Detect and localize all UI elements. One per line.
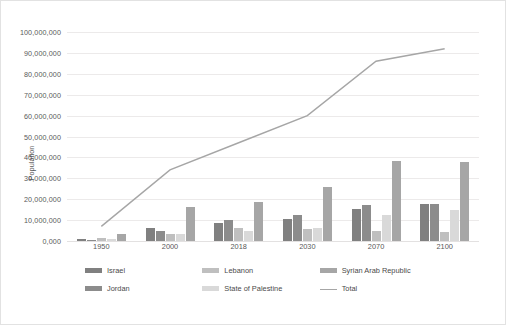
bar [392, 161, 401, 241]
y-axis-tick-label: 10,000,000 [24, 216, 61, 225]
bar [430, 204, 439, 241]
bar [440, 232, 449, 241]
bar [352, 209, 361, 241]
legend-item-syrian-arab-republic[interactable]: Syrian Arab Republic [320, 266, 437, 275]
plot-area: 100,000,00090,000,00080,000,00070,000,00… [67, 32, 479, 241]
bar [224, 220, 233, 241]
legend-label: Israel [107, 266, 125, 275]
bar [450, 210, 459, 241]
legend-item-jordan[interactable]: Jordan [85, 284, 202, 293]
x-axis-tick-label: 2000 [136, 242, 205, 251]
legend-label: Lebanon [224, 266, 253, 275]
bar [372, 231, 381, 241]
bar [107, 239, 116, 241]
y-axis-tick-label: 40,000,000 [24, 153, 61, 162]
x-axis-tick-label: 2018 [204, 242, 273, 251]
bar-group-2100 [410, 32, 479, 241]
bar [323, 187, 332, 241]
bar-group-2030 [273, 32, 342, 241]
chart-container: Population 100,000,00090,000,00080,000,0… [0, 0, 506, 325]
legend-color-swatch-icon [202, 286, 219, 291]
bar [176, 234, 185, 241]
y-axis-tick-label: 50,000,000 [24, 132, 61, 141]
bar [186, 207, 195, 241]
bar [97, 238, 106, 241]
bar [166, 234, 175, 241]
bar [382, 215, 391, 241]
bar [244, 231, 253, 241]
bar [146, 228, 155, 241]
y-axis-tick-label: 70,000,000 [24, 90, 61, 99]
legend-line-swatch-icon [320, 289, 337, 290]
bar [87, 240, 96, 241]
x-axis-tick-label: 1950 [67, 242, 136, 251]
bar [214, 223, 223, 241]
x-axis-tick-label: 2070 [342, 242, 411, 251]
bar [313, 228, 322, 241]
legend-color-swatch-icon [85, 286, 102, 291]
legend-item-lebanon[interactable]: Lebanon [202, 266, 319, 275]
legend-label: Jordan [107, 284, 130, 293]
x-axis-ticks: 195020002018203020702100 [67, 242, 479, 251]
y-axis-tick-label: 0,000 [43, 237, 62, 246]
legend-item-total[interactable]: Total [320, 284, 437, 293]
bar [460, 162, 469, 241]
bar [293, 215, 302, 241]
y-axis-tick-label: 80,000,000 [24, 69, 61, 78]
bar [234, 228, 243, 241]
bar [362, 205, 371, 241]
bar-group-2000 [136, 32, 205, 241]
x-axis-tick-label: 2030 [273, 242, 342, 251]
legend-color-swatch-icon [85, 268, 102, 273]
x-axis-tick-label: 2100 [410, 242, 479, 251]
bar-group-2018 [204, 32, 273, 241]
bar [283, 219, 292, 241]
legend-color-swatch-icon [202, 268, 219, 273]
y-axis-tick-label: 60,000,000 [24, 111, 61, 120]
legend-label: Syrian Arab Republic [342, 266, 411, 275]
bar-group-2070 [342, 32, 411, 241]
bar [156, 231, 165, 241]
bar [254, 202, 263, 241]
bar [117, 234, 126, 241]
chart-legend: IsraelLebanonSyrian Arab RepublicJordanS… [85, 266, 437, 293]
legend-item-israel[interactable]: Israel [85, 266, 202, 275]
legend-color-swatch-icon [320, 268, 337, 273]
bar-series-layer [67, 32, 479, 241]
bar [303, 229, 312, 241]
legend-item-state-of-palestine[interactable]: State of Palestine [202, 284, 319, 293]
legend-label: Total [342, 284, 358, 293]
bar-group-1950 [67, 32, 136, 241]
legend-label: State of Palestine [224, 284, 282, 293]
bar [77, 239, 86, 242]
y-axis-tick-label: 100,000,000 [20, 28, 61, 37]
bar [420, 204, 429, 241]
y-axis-tick-label: 30,000,000 [24, 174, 61, 183]
y-axis-tick-label: 20,000,000 [24, 195, 61, 204]
y-axis-tick-label: 90,000,000 [24, 48, 61, 57]
